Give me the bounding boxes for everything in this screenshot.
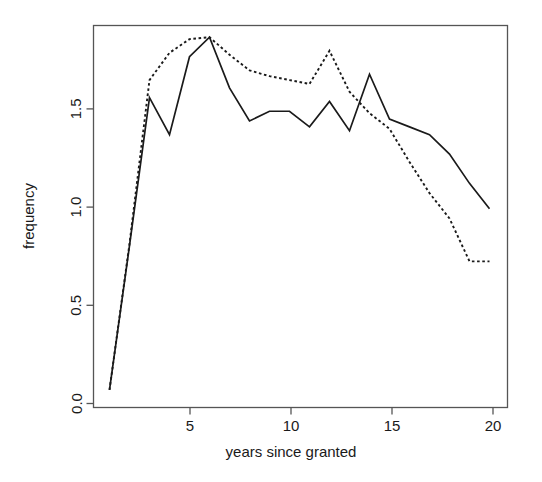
x-axis-title: years since granted	[226, 443, 357, 460]
y-tick-label-1: 0.5	[68, 295, 85, 316]
x-tick-label-0: 5	[186, 417, 194, 434]
x-tick-label-3: 20	[485, 417, 502, 434]
y-axis-title: frequency	[20, 183, 37, 249]
y-tick-label-3: 1.5	[68, 98, 85, 119]
x-tick-label-1: 10	[283, 417, 300, 434]
y-tick-label-0: 0.0	[68, 393, 85, 414]
y-tick-label-2: 1.0	[68, 197, 85, 218]
line-chart: 0.0 0.5 1.0 1.5 5 10 15 20 years since g…	[0, 0, 542, 482]
x-tick-label-2: 15	[384, 417, 401, 434]
chart-figure: 0.0 0.5 1.0 1.5 5 10 15 20 years since g…	[0, 0, 542, 482]
